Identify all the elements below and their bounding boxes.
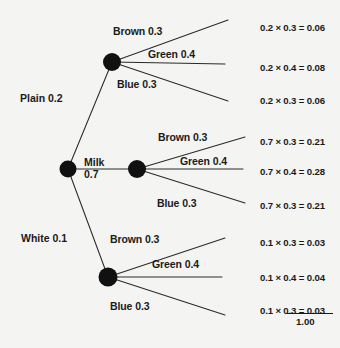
branch-label-white-blue: Blue 0.3	[110, 300, 149, 312]
stem-label-milk-outcome: Milk	[84, 156, 104, 168]
tree-node-plain	[103, 53, 121, 71]
result-plain-brown: 0.2 × 0.3 = 0.06	[260, 22, 325, 33]
result-milk-green: 0.7 × 0.4 = 0.28	[260, 166, 325, 177]
stem-label-milk-probability: 0.7	[84, 168, 104, 180]
stem-label-plain: Plain 0.2	[20, 92, 63, 104]
stem-label-milk: Milk0.7	[84, 156, 104, 180]
tree-edge-plain-green	[112, 62, 225, 64]
branch-label-plain-green: Green 0.4	[148, 48, 195, 60]
branch-label-white-brown: Brown 0.3	[110, 233, 159, 245]
probability-tree-diagram: Plain 0.2Milk0.7White 0.1 Brown 0.3Green…	[0, 0, 340, 348]
tree-node-milk	[128, 160, 146, 178]
result-white-green: 0.1 × 0.4 = 0.04	[260, 272, 325, 283]
branch-label-milk-brown: Brown 0.3	[158, 131, 207, 143]
tree-node-root	[60, 161, 77, 178]
total-value: 1.00	[296, 316, 315, 327]
result-white-blue: 0.1 × 0.3 = 0.03	[260, 305, 325, 316]
total-underline	[287, 313, 333, 314]
branch-label-milk-blue: Blue 0.3	[157, 197, 196, 209]
result-plain-green: 0.2 × 0.4 = 0.08	[260, 62, 325, 73]
branch-label-plain-blue: Blue 0.3	[117, 78, 156, 90]
tree-edge-plain	[68, 62, 112, 169]
result-milk-brown: 0.7 × 0.3 = 0.21	[260, 136, 325, 147]
tree-node-white	[99, 268, 118, 287]
result-plain-blue: 0.2 × 0.3 = 0.06	[260, 95, 325, 106]
tree-edge-white	[68, 169, 108, 277]
stem-label-white: White 0.1	[21, 232, 67, 244]
branch-label-white-green: Green 0.4	[152, 258, 199, 270]
branch-label-plain-brown: Brown 0.3	[113, 25, 162, 37]
result-white-brown: 0.1 × 0.3 = 0.03	[260, 237, 325, 248]
result-milk-blue: 0.7 × 0.3 = 0.21	[260, 200, 325, 211]
branch-label-milk-green: Green 0.4	[180, 155, 227, 167]
